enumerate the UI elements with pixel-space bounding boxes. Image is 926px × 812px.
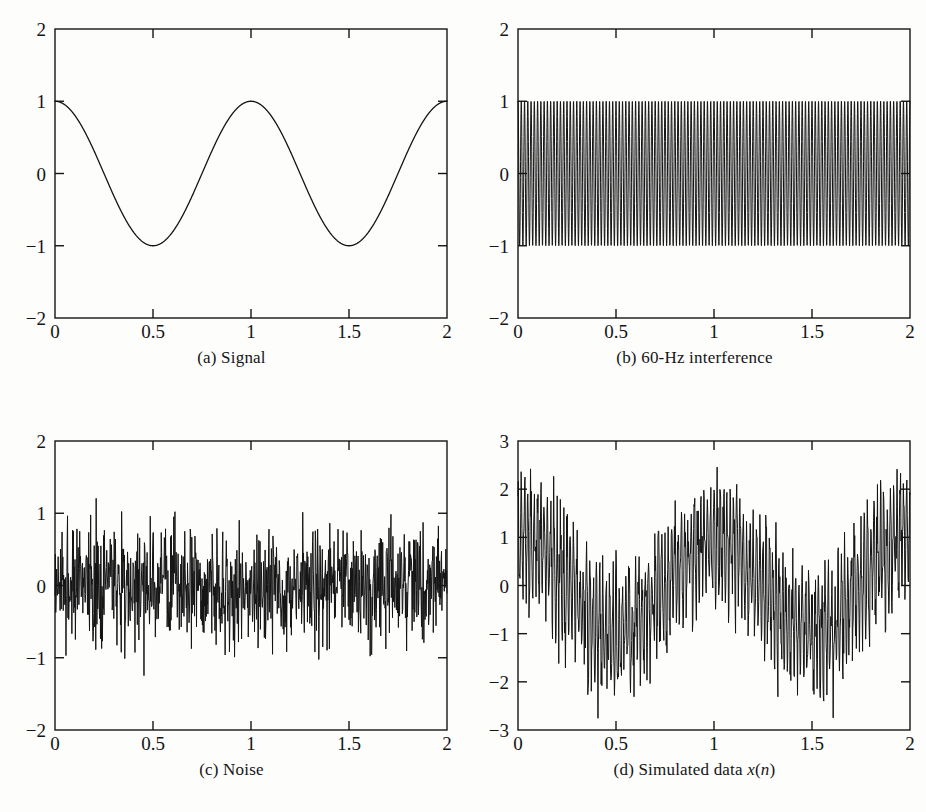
panel-b-ytick-label: 1 bbox=[500, 91, 510, 112]
panel-c-caption: (c) Noise bbox=[0, 760, 463, 780]
panel-d-caption-paren-close: ) bbox=[770, 760, 776, 779]
panel-a-xtick-label: 2 bbox=[442, 321, 452, 342]
panel-a-xtick-label: 0 bbox=[50, 321, 60, 342]
panel-a-xtick-label: 1.5 bbox=[337, 321, 361, 342]
panel-a-ytick-label: 1 bbox=[37, 91, 47, 112]
panel-a-axes-frame bbox=[55, 29, 447, 318]
figure-panel-grid: 00.511.52−2−1012 (a) Signal 00.511.52−2−… bbox=[0, 0, 926, 812]
panel-c-plot: 00.511.52−2−1012 bbox=[0, 412, 463, 757]
panel-c-noise: 00.511.52−2−1012 (c) Noise bbox=[0, 412, 463, 812]
panel-d-ytick-label: 2 bbox=[500, 479, 510, 500]
panel-b-xtick-label: 2 bbox=[905, 321, 915, 342]
panel-c-ytick-label: −2 bbox=[26, 720, 46, 741]
panel-d-axes-frame bbox=[518, 441, 910, 730]
panel-b-caption-text: (b) 60-Hz interference bbox=[616, 348, 772, 367]
panel-c-xtick-label: 2 bbox=[442, 733, 452, 754]
panel-c-ytick-label: 0 bbox=[37, 576, 47, 597]
panel-d-xtick-label: 0.5 bbox=[604, 733, 628, 754]
panel-d-data-line bbox=[518, 467, 910, 718]
panel-a-plot: 00.511.52−2−1012 bbox=[0, 0, 463, 345]
panel-d-ytick-label: 1 bbox=[500, 527, 510, 548]
panel-b-interference: 00.511.52−2−1012 (b) 60-Hz interference bbox=[463, 0, 926, 400]
panel-a-xtick-label: 1 bbox=[246, 321, 256, 342]
panel-c-xtick-label: 0 bbox=[50, 733, 60, 754]
panel-a-xtick-label: 0.5 bbox=[141, 321, 165, 342]
panel-d-xtick-label: 1.5 bbox=[800, 733, 824, 754]
panel-d-xtick-label: 1 bbox=[709, 733, 719, 754]
panel-b-xtick-label: 0.5 bbox=[604, 321, 628, 342]
panel-d-ytick-label: 3 bbox=[500, 431, 510, 452]
panel-d-caption-var-n: n bbox=[761, 760, 770, 779]
panel-c-caption-text: (c) Noise bbox=[199, 760, 264, 779]
panel-d-ytick-label: 0 bbox=[500, 576, 510, 597]
panel-a-caption-text: (a) Signal bbox=[197, 348, 266, 367]
panel-a-ytick-label: 2 bbox=[37, 19, 47, 40]
panel-b-axes-frame bbox=[518, 29, 910, 318]
panel-d-caption: (d) Simulated data x(n) bbox=[463, 760, 926, 780]
panel-d-caption-text: (d) Simulated data bbox=[614, 760, 748, 779]
panel-a-caption: (a) Signal bbox=[0, 348, 463, 368]
panel-c-xtick-label: 0.5 bbox=[141, 733, 165, 754]
panel-a-ytick-label: −2 bbox=[26, 308, 46, 329]
panel-d-caption-var-x: x bbox=[747, 760, 755, 779]
panel-a-ytick-label: −1 bbox=[26, 236, 46, 257]
panel-c-ytick-label: −1 bbox=[26, 648, 46, 669]
panel-b-caption: (b) 60-Hz interference bbox=[463, 348, 926, 368]
panel-b-xtick-label: 0 bbox=[513, 321, 523, 342]
panel-d-plot: 00.511.52−3−2−10123 bbox=[463, 412, 926, 757]
panel-a-data-line bbox=[55, 101, 447, 246]
panel-b-plot: 00.511.52−2−1012 bbox=[463, 0, 926, 345]
panel-b-xtick-label: 1 bbox=[709, 321, 719, 342]
panel-d-ytick-label: −2 bbox=[489, 672, 509, 693]
panel-b-data-line bbox=[518, 101, 910, 245]
panel-b-ytick-label: −2 bbox=[489, 308, 509, 329]
panel-a-signal: 00.511.52−2−1012 (a) Signal bbox=[0, 0, 463, 400]
panel-d-simulated-data: 00.511.52−3−2−10123 (d) Simulated data x… bbox=[463, 412, 926, 812]
panel-c-data-line bbox=[55, 498, 447, 675]
panel-b-xtick-label: 1.5 bbox=[800, 321, 824, 342]
panel-b-ytick-label: 0 bbox=[500, 164, 510, 185]
panel-c-ytick-label: 2 bbox=[37, 431, 47, 452]
panel-b-ytick-label: −1 bbox=[489, 236, 509, 257]
panel-d-ytick-label: −1 bbox=[489, 624, 509, 645]
panel-d-xtick-label: 0 bbox=[513, 733, 523, 754]
panel-c-xtick-label: 1.5 bbox=[337, 733, 361, 754]
panel-c-xtick-label: 1 bbox=[246, 733, 256, 754]
panel-a-ytick-label: 0 bbox=[37, 164, 47, 185]
panel-d-xtick-label: 2 bbox=[905, 733, 915, 754]
panel-b-ytick-label: 2 bbox=[500, 19, 510, 40]
panel-c-ytick-label: 1 bbox=[37, 503, 47, 524]
panel-d-ytick-label: −3 bbox=[489, 720, 509, 741]
